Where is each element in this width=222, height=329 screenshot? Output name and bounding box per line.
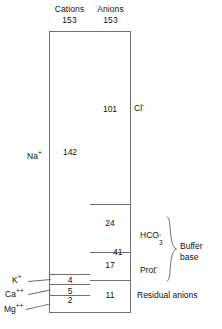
ion-label-calcium: Ca++ — [5, 290, 23, 299]
anion-label-residual: Residual anions — [137, 291, 197, 300]
ion-symbol-magnesium: Mg — [4, 304, 16, 314]
ion-label-magnesium: Mg++ — [4, 305, 23, 314]
ion-charge-calcium: ++ — [16, 287, 24, 294]
ion-label-sodium: Na+ — [27, 152, 42, 161]
anion-segment-residual: 11 — [90, 281, 130, 312]
anion-segment-bicarbonate: 24 — [90, 205, 130, 253]
anion-symbol-protein: Prot — [140, 265, 156, 275]
ion-charge-potassium: + — [18, 273, 22, 280]
anion-label-bicarbonate: HCO-3 — [140, 231, 163, 240]
anion-value-bicarbonate: 24 — [90, 219, 130, 228]
anion-label-protein: Prot- — [140, 266, 158, 275]
cations-header-total: 153 — [49, 16, 90, 25]
cation-value-sodium: 142 — [50, 148, 90, 157]
cation-segment-magnesium: 2 — [50, 296, 90, 312]
anions-header-total: 153 — [90, 16, 131, 25]
anion-charge-protein: - — [156, 263, 158, 270]
cations-column-header: Cations 153 — [49, 5, 90, 24]
buffer-base-brace — [166, 216, 178, 282]
cation-segment-sodium: 142 — [50, 32, 90, 275]
leader-line-magnesium — [26, 303, 51, 310]
anions-bar: 101 24 17 11 — [90, 31, 131, 313]
anions-column-header: Anions 153 — [90, 5, 131, 24]
anion-segment-protein: 17 — [90, 253, 130, 281]
buffer-base-label: Buffer base — [180, 241, 203, 262]
anion-value-protein: 17 — [90, 261, 130, 270]
ion-symbol-sodium: Na — [27, 151, 38, 161]
anion-label-chloride: Cl- — [134, 104, 144, 113]
cation-segment-potassium: 4 — [50, 275, 90, 285]
bicarbonate-charge: - — [159, 232, 161, 239]
buffer-base-line-2: base — [180, 252, 203, 263]
anions-header-label: Anions — [90, 5, 131, 14]
cation-value-potassium: 4 — [50, 276, 90, 285]
anion-symbol-bicarbonate: HCO — [140, 230, 159, 240]
anion-value-chloride: 101 — [90, 105, 130, 114]
buffer-base-total: 41 — [113, 248, 122, 257]
leader-line-calcium — [28, 290, 51, 295]
cations-bar: 142 4 5 2 — [49, 31, 91, 313]
cations-header-label: Cations — [49, 5, 90, 14]
cation-value-magnesium: 2 — [50, 296, 90, 305]
buffer-base-line-1: Buffer — [180, 241, 203, 252]
bicarbonate-subscript: 3 — [159, 240, 163, 247]
leader-line-potassium — [28, 279, 51, 282]
gamblegram-figure: Cations 153 Anions 153 142 4 5 2 101 — [0, 0, 222, 329]
ion-symbol-calcium: Ca — [5, 289, 16, 299]
ion-label-potassium: K+ — [12, 276, 21, 285]
anion-symbol-chloride: Cl — [134, 103, 142, 113]
anion-value-residual: 11 — [90, 291, 130, 300]
brace-icon — [166, 216, 178, 282]
ion-charge-sodium: + — [38, 149, 42, 156]
ion-charge-magnesium: ++ — [16, 302, 24, 309]
anion-charge-chloride: - — [142, 101, 144, 108]
anion-segment-chloride: 101 — [90, 32, 130, 205]
